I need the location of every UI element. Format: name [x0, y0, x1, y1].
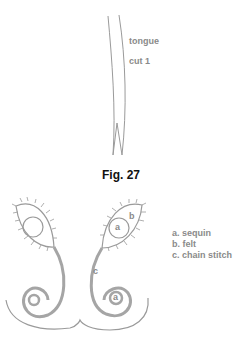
right-stem-spiral: [91, 248, 130, 316]
left-stem-spiral: [23, 247, 63, 317]
legend-item-a: a. sequin: [172, 228, 232, 239]
legend-item-c: c. chain stitch: [172, 250, 232, 261]
right-leaf-drawing: [100, 199, 146, 251]
tongue-strip-drawing: [108, 15, 125, 155]
tongue-label: tongue: [129, 36, 159, 46]
left-leaf-drawing: [12, 197, 57, 251]
legend-item-b: b. felt: [172, 239, 232, 250]
figure-caption: Fig. 27: [102, 168, 140, 182]
cut-label: cut 1: [129, 56, 150, 66]
label-b-felt: b: [129, 211, 135, 221]
label-c-chain-stitch: c: [93, 266, 98, 276]
legend: a. sequin b. felt c. chain stitch: [172, 228, 232, 261]
label-a-sequin-top: a: [115, 222, 120, 232]
base-outline: [6, 298, 148, 330]
label-a-sequin-bottom: a: [113, 292, 118, 302]
